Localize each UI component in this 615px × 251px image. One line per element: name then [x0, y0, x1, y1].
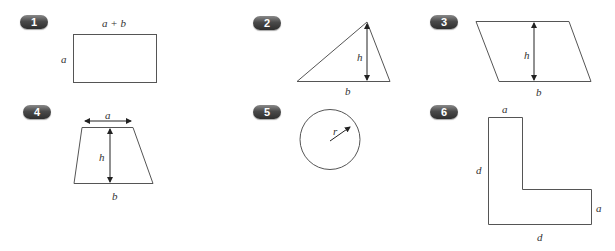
triangle-base-label: b: [345, 85, 351, 97]
rectangle-shape: [74, 35, 157, 83]
trapezoid-base-label: b: [112, 190, 118, 202]
l-shape-left-label: d: [476, 164, 482, 176]
trapezoid-height-label: h: [99, 151, 105, 163]
l-shape-right-label: a: [596, 202, 602, 214]
l-shape: [489, 118, 592, 225]
trapezoid-shape: [74, 128, 153, 184]
l-shape-bottom-label: d: [537, 231, 543, 243]
geometry-figures: [0, 0, 615, 251]
triangle-height-label: h: [357, 51, 363, 63]
trapezoid-top-label: a: [105, 109, 111, 121]
l-shape-top-label: a: [502, 103, 508, 115]
rectangle-left-label: a: [61, 53, 67, 65]
rectangle-top-label: a + b: [102, 17, 126, 29]
circle-shape: [300, 110, 360, 170]
parallelogram-height-label: h: [524, 49, 530, 61]
parallelogram-base-label: b: [536, 86, 542, 98]
circle-radius-label: r: [333, 125, 337, 137]
triangle-shape: [297, 22, 390, 82]
